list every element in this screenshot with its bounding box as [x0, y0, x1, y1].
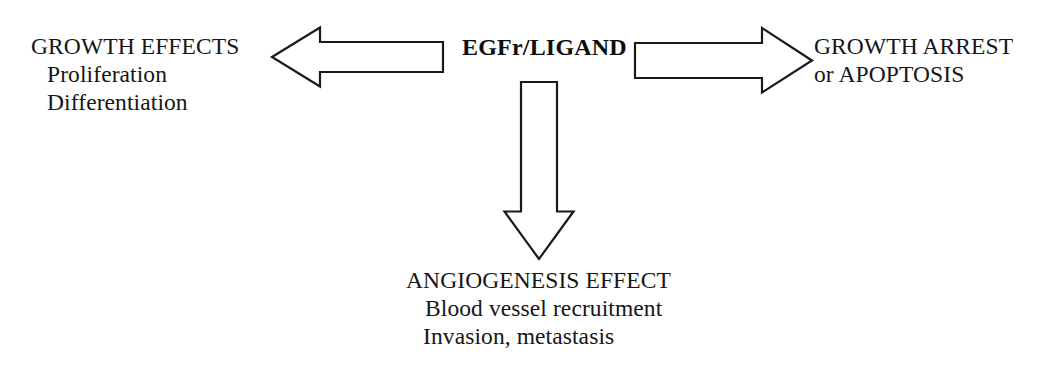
- right-outcome-heading: GROWTH ARREST: [814, 32, 1013, 60]
- left-outcome-block: GROWTH EFFECTS Proliferation Differentia…: [31, 32, 239, 116]
- down-arrow-icon: [505, 82, 574, 259]
- left-outcome-item-2: Differentiation: [31, 88, 239, 116]
- left-arrow-icon: [272, 28, 443, 87]
- bottom-outcome-item-1: Blood vessel recruitment: [406, 294, 671, 322]
- diagram-canvas: EGFr/LIGAND GROWTH EFFECTS Proliferation…: [0, 0, 1049, 376]
- bottom-outcome-block: ANGIOGENESIS EFFECT Blood vessel recruit…: [406, 266, 671, 350]
- right-outcome-item-1: or APOPTOSIS: [814, 60, 1013, 88]
- left-outcome-item-1: Proliferation: [31, 60, 239, 88]
- right-arrow-icon: [635, 28, 812, 93]
- right-outcome-block: GROWTH ARREST or APOPTOSIS: [814, 32, 1013, 88]
- hub-label: EGFr/LIGAND: [462, 33, 627, 61]
- bottom-outcome-heading: ANGIOGENESIS EFFECT: [406, 266, 671, 294]
- bottom-outcome-item-2: Invasion, metastasis: [406, 322, 671, 350]
- left-outcome-heading: GROWTH EFFECTS: [31, 32, 239, 60]
